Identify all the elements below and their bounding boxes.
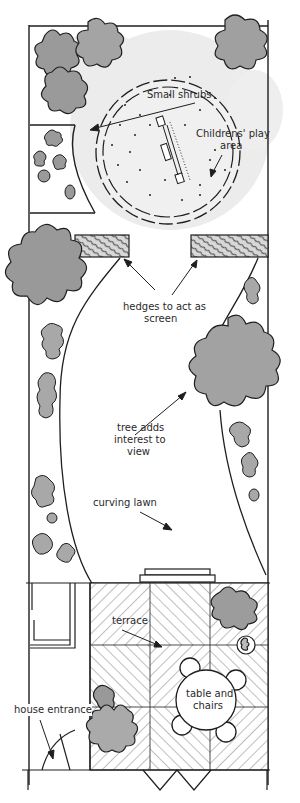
label-terrace: terrace [112,615,148,627]
label-table-line2: chairs [193,700,223,712]
label-hedges-line1: hedges to act as [123,301,206,313]
small-shrubs [34,130,75,199]
label-hedges-line2: screen [144,313,177,325]
label-tree-line2: interest to [114,434,166,446]
label-curving-lawn: curving lawn [93,497,157,509]
label-table-line1: table and [186,688,233,700]
label-tree-line1: tree adds [117,422,164,434]
label-small-shrubs: Small shrubs [147,89,212,101]
label-house-entrance: house entrance [14,704,92,716]
house-structure [30,583,75,648]
steps [140,569,215,582]
garden-plan [0,0,300,803]
tree-left [5,224,86,304]
label-childrens-play-area-line1: Childrens' play [196,128,270,140]
label-childrens-play-area-line2: area [220,140,242,152]
hedges [75,235,268,257]
label-tree-line3: view [127,446,150,458]
house-entrance-door [42,583,90,770]
tree-right [189,315,280,406]
